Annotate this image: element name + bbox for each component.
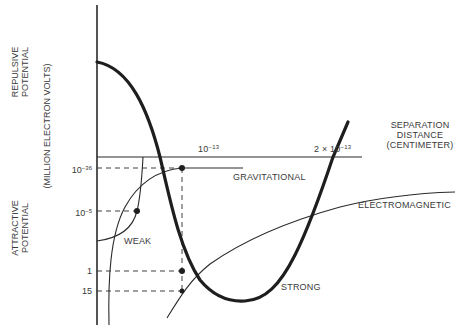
electromagnetic-curve [167,192,455,318]
weak-point [134,208,140,214]
gravitational-label: GRAVITATIONAL [233,172,306,182]
electromagnetic-point [179,268,185,274]
x-tick-2x10-13: 2 × 10−13 [314,142,351,154]
separation-distance-label: SEPARATION DISTANCE (CENTIMETER) [380,120,460,150]
repulsive-potential-label: REPULSIVE POTENTIAL [10,32,30,112]
y-tick-10-5: 10−5 [52,206,92,218]
y-tick-10-36: 10−36 [52,163,92,175]
strong-label: STRONG [281,282,321,292]
y-tick-1: 1 [52,266,92,276]
y-tick-15: 15 [52,286,92,296]
attractive-potential-label: ATTRACTIVE POTENTIAL [10,188,30,268]
x-tick-10-13: 10−13 [198,142,219,154]
strong-point [180,289,185,294]
weak-label: WEAK [124,236,151,246]
weak-curve [97,157,143,241]
strong-curve [97,62,348,301]
unit-label: (MILLION ELECTRON VOLTS) [42,56,52,196]
gravitational-point [179,165,185,171]
gravitational-curve [109,168,243,325]
electromagnetic-label: ELECTROMAGNETIC [358,200,451,210]
